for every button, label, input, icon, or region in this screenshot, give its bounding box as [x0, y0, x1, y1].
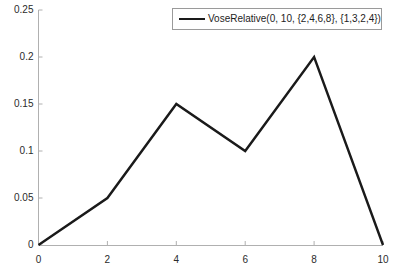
x-tick-label: 6 [242, 255, 248, 265]
y-tick-label: 0.1 [20, 146, 34, 156]
y-axis-ticks [39, 10, 43, 245]
legend-line-swatch [179, 18, 205, 20]
y-tick-label: 0 [28, 240, 34, 250]
legend-entry-label: VoseRelative(0, 10, {2,4,6,8}, {1,3,2,4}… [208, 14, 381, 24]
plot-area [0, 0, 397, 272]
x-tick-label: 2 [105, 255, 111, 265]
x-tick-label: 8 [311, 255, 317, 265]
y-tick-label: 0.2 [20, 52, 34, 62]
x-tick-label: 4 [174, 255, 180, 265]
x-tick-label: 10 [377, 255, 388, 265]
x-axis-ticks [39, 241, 384, 245]
x-tick-label: 0 [36, 255, 42, 265]
y-tick-label: 0.05 [14, 193, 33, 203]
legend: VoseRelative(0, 10, {2,4,6,8}, {1,3,2,4}… [172, 8, 382, 30]
chart-container: 00.050.10.150.20.25 0246810 VoseRelative… [0, 0, 397, 272]
y-tick-label: 0.25 [14, 5, 33, 15]
y-tick-label: 0.15 [14, 99, 33, 109]
data-series-line [39, 57, 384, 245]
